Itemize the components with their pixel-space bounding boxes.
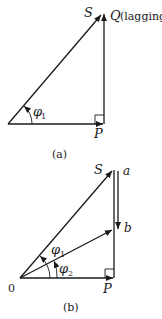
label-q-lagging: (lagging) bbox=[120, 10, 162, 23]
label-phi1-sub: 1 bbox=[41, 112, 46, 121]
diagram-b: S a b φ 1 φ 2 0 P (b) bbox=[8, 162, 132, 314]
right-angle-marker bbox=[95, 115, 104, 124]
label-phi2-sub: 2 bbox=[68, 269, 73, 278]
label-phi1-sub: 1 bbox=[60, 250, 65, 259]
label-s: S bbox=[84, 5, 93, 20]
power-triangle-diagrams: S Q (lagging) φ 1 P (a) S a b φ 1 φ 2 0 … bbox=[0, 0, 162, 319]
label-s: S bbox=[94, 162, 103, 177]
label-a: a bbox=[123, 164, 130, 178]
label-origin: 0 bbox=[8, 282, 15, 295]
label-b: b bbox=[124, 221, 132, 235]
label-p: P bbox=[93, 126, 103, 141]
phi2-arc bbox=[54, 261, 57, 278]
label-p: P bbox=[102, 281, 112, 296]
s-vector bbox=[8, 15, 101, 124]
diagram-a: S Q (lagging) φ 1 P (a) bbox=[8, 5, 162, 161]
caption-a: (a) bbox=[52, 148, 67, 161]
phi1-arc bbox=[24, 106, 32, 124]
caption-b: (b) bbox=[63, 301, 79, 314]
right-angle-marker bbox=[105, 269, 114, 278]
